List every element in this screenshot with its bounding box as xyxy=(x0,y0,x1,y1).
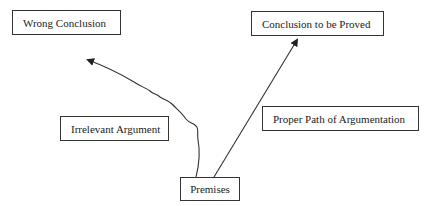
wrong-conclusion-label: Wrong Conclusion xyxy=(23,17,106,29)
premises-label: Premises xyxy=(190,183,230,195)
irrelevant-argument-label: Irrelevant Argument xyxy=(71,123,160,135)
conclusion-to-be-proved-label: Conclusion to be Proved xyxy=(262,18,370,30)
proper-path-box: Proper Path of Argumentation xyxy=(262,106,419,131)
proper-path-label: Proper Path of Argumentation xyxy=(273,113,405,125)
conclusion-to-be-proved-box: Conclusion to be Proved xyxy=(251,11,384,36)
wrong-conclusion-box: Wrong Conclusion xyxy=(12,10,121,35)
premises-box: Premises xyxy=(180,177,240,201)
irrelevant-argument-box: Irrelevant Argument xyxy=(60,116,169,141)
